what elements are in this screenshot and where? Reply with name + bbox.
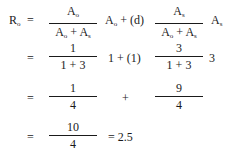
middle-term-2: 1 + (1) bbox=[108, 52, 141, 64]
denominator: 4 bbox=[49, 99, 97, 111]
middle-term-1: Ao + (d) bbox=[105, 14, 144, 30]
denominator: 1 + 3 bbox=[155, 59, 203, 71]
equals-sign-3: = bbox=[27, 92, 34, 104]
fraction-1-over-4: 1 4 bbox=[49, 82, 97, 111]
numerator: 9 bbox=[155, 82, 203, 94]
numerator: 1 bbox=[49, 42, 97, 54]
equals-sign-4: = bbox=[27, 131, 34, 143]
numerator: As bbox=[155, 5, 203, 21]
fraction-1-over-1plus3: 1 1 + 3 bbox=[49, 42, 97, 71]
equals-sign-2: = bbox=[27, 52, 34, 64]
numerator: 3 bbox=[155, 42, 203, 54]
fraction-as-over-sum: As Ao + As bbox=[155, 5, 203, 42]
denominator: Ao + As bbox=[49, 26, 97, 42]
fraction-bar bbox=[49, 56, 97, 57]
result-value: = 2.5 bbox=[108, 131, 133, 143]
lhs-ro: Ro bbox=[9, 14, 21, 30]
equals-sign-1: = bbox=[27, 14, 34, 26]
fraction-bar bbox=[155, 96, 203, 97]
lhs-sub: o bbox=[17, 20, 21, 28]
tail-term-2: 3 bbox=[209, 52, 215, 64]
denominator: 4 bbox=[49, 138, 97, 150]
plus-sign-3: + bbox=[122, 92, 129, 104]
fraction-10-over-4: 10 4 bbox=[49, 121, 97, 150]
lhs-base: R bbox=[9, 13, 17, 27]
denominator: 4 bbox=[155, 99, 203, 111]
numerator: 10 bbox=[49, 121, 97, 133]
fraction-9-over-4: 9 4 bbox=[155, 82, 203, 111]
denominator: 1 + 3 bbox=[49, 59, 97, 71]
fraction-3-over-1plus3: 3 1 + 3 bbox=[155, 42, 203, 71]
denominator: Ao + As bbox=[155, 26, 203, 42]
tail-term-1: As bbox=[211, 14, 222, 30]
fraction-bar bbox=[49, 96, 97, 97]
fraction-bar bbox=[49, 23, 97, 24]
fraction-bar bbox=[49, 135, 97, 136]
fraction-bar bbox=[155, 56, 203, 57]
fraction-ao-over-sum: Ao Ao + As bbox=[49, 5, 97, 42]
fraction-bar bbox=[155, 23, 203, 24]
numerator: Ao bbox=[49, 5, 97, 21]
numerator: 1 bbox=[49, 82, 97, 94]
